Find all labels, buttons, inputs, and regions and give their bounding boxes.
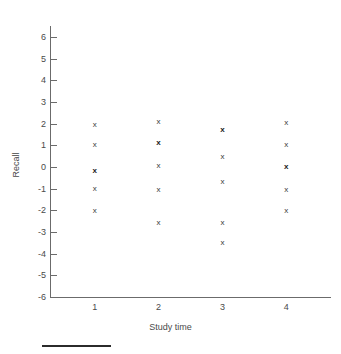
data-point-marker: x	[281, 186, 291, 194]
y-axis-tick-label: -2	[28, 206, 46, 215]
x-axis-tick-label: 4	[276, 303, 296, 312]
data-point-marker: x	[90, 185, 100, 193]
y-axis-tick	[51, 59, 57, 60]
data-point-marker: x	[90, 121, 100, 129]
y-axis-tick-label: 1	[28, 141, 46, 150]
data-point-marker: x	[217, 178, 227, 186]
y-axis-tick-label: -1	[28, 185, 46, 194]
data-point-marker: x	[217, 239, 227, 247]
y-axis-tick-label: 2	[28, 120, 46, 129]
data-point-marker: x	[90, 141, 100, 149]
data-point-marker: x	[154, 219, 164, 227]
data-point-marker: x	[281, 207, 291, 215]
y-axis-tick	[51, 275, 57, 276]
data-point-marker: x	[154, 186, 164, 194]
y-axis-tick-label-wrap: 1	[0, 141, 46, 150]
y-axis-tick-label-wrap: -3	[0, 228, 46, 237]
y-axis-line	[50, 26, 51, 298]
data-point-marker: x	[90, 167, 100, 175]
data-point-marker: x	[281, 141, 291, 149]
data-point-marker: x	[154, 118, 164, 126]
y-axis-tick-label-wrap: 6	[0, 33, 46, 42]
y-axis-tick-label: -3	[28, 228, 46, 237]
x-axis-tick-label: 3	[212, 303, 232, 312]
y-axis-tick	[51, 102, 57, 103]
y-axis-tick-label-wrap: 5	[0, 55, 46, 64]
data-point-marker: x	[281, 119, 291, 127]
y-axis-tick-label: 0	[28, 163, 46, 172]
x-axis-line	[50, 297, 331, 298]
y-axis-tick-label: -6	[28, 293, 46, 302]
bottom-rule	[42, 345, 111, 347]
data-point-marker: x	[154, 162, 164, 170]
y-axis-tick-label-wrap: -2	[0, 206, 46, 215]
y-axis-tick-label-wrap: 0	[0, 163, 46, 172]
y-axis-tick	[51, 124, 57, 125]
data-point-marker: x	[217, 219, 227, 227]
y-axis-tick	[51, 189, 57, 190]
y-axis-tick-label: -4	[28, 250, 46, 259]
y-axis-tick-label: 6	[28, 33, 46, 42]
y-axis-title: Recall	[11, 135, 21, 195]
data-point-marker: x	[90, 207, 100, 215]
y-axis-tick-label: -5	[28, 271, 46, 280]
y-axis-tick	[51, 232, 57, 233]
y-axis-tick	[51, 254, 57, 255]
data-point-marker: x	[217, 153, 227, 161]
y-axis-tick	[51, 145, 57, 146]
y-axis-tick	[51, 297, 57, 298]
y-axis-tick-label: 3	[28, 98, 46, 107]
x-axis-tick-label: 2	[149, 303, 169, 312]
data-point-marker: x	[281, 163, 291, 171]
x-axis-tick-label: 1	[85, 303, 105, 312]
y-axis-tick	[51, 37, 57, 38]
y-axis-tick-label-wrap: -1	[0, 185, 46, 194]
y-axis-tick-label: 5	[28, 55, 46, 64]
y-axis-tick	[51, 210, 57, 211]
y-axis-tick-label: 4	[28, 76, 46, 85]
x-axis-title: Study time	[0, 322, 341, 332]
y-axis-tick-label-wrap: 2	[0, 120, 46, 129]
y-axis-tick	[51, 80, 57, 81]
y-axis-tick-label-wrap: -6	[0, 293, 46, 302]
y-axis-tick-label-wrap: 3	[0, 98, 46, 107]
scatter-plot-figure: 6543210-1-2-3-4-5-6 1234 xxxxxxxxxxxxxxx…	[0, 0, 341, 354]
y-axis-tick-label-wrap: 4	[0, 76, 46, 85]
y-axis-tick-label-wrap: -4	[0, 250, 46, 259]
data-point-marker: x	[217, 126, 227, 134]
y-axis-tick-label-wrap: -5	[0, 271, 46, 280]
data-point-marker: x	[154, 139, 164, 147]
y-axis-tick	[51, 167, 57, 168]
